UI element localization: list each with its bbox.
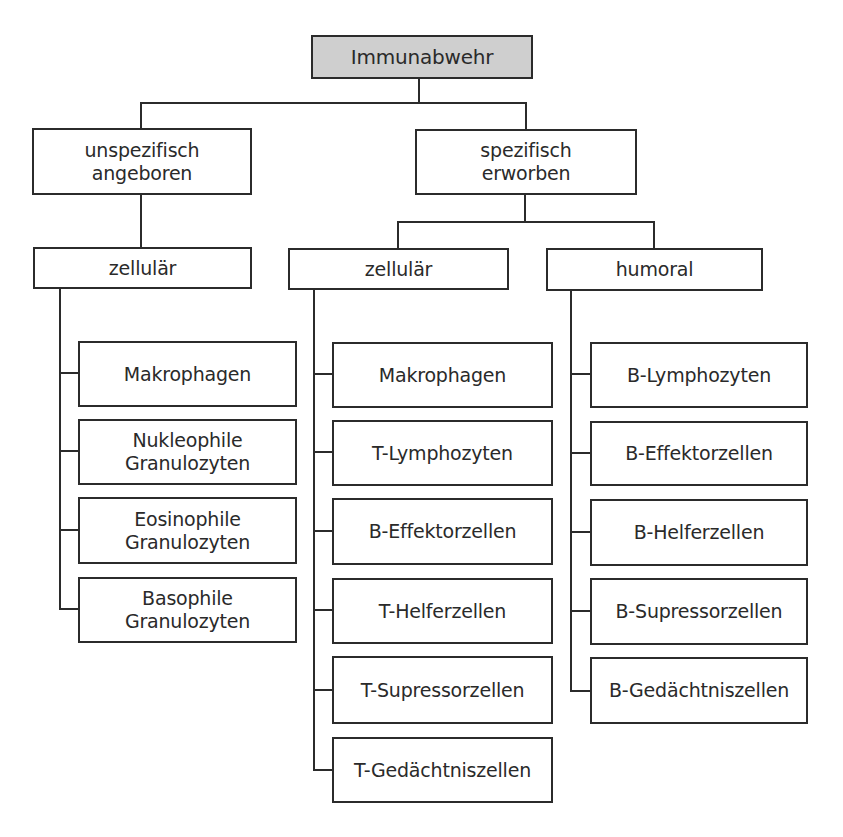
leaf-col3-b-helferzellen: B-Helferzellen bbox=[590, 499, 808, 566]
branch-col2-5 bbox=[313, 769, 333, 771]
leaf-label: B-Lymphozyten bbox=[627, 364, 771, 387]
branch-col3-4 bbox=[570, 690, 591, 692]
connector-root-down bbox=[418, 78, 420, 104]
leaf-col2-t-lymphozyten: T-Lymphozyten bbox=[332, 420, 553, 486]
branch-col3-3 bbox=[570, 610, 591, 612]
node-label: zellulär bbox=[365, 258, 432, 281]
connector-unspezifisch-down bbox=[140, 193, 142, 248]
connector-to-zellulaer-spez bbox=[397, 221, 399, 249]
connector-spezifisch-down bbox=[524, 193, 526, 223]
branch-col1-2 bbox=[59, 529, 79, 531]
connector-level2-bar bbox=[397, 221, 655, 223]
leaf-label: T-Supressorzellen bbox=[361, 679, 525, 702]
leaf-col1-nukleophile: Nukleophile Granulozyten bbox=[78, 419, 297, 485]
leaf-label: B-Gedächtniszellen bbox=[609, 679, 789, 702]
leaf-col3-b-effektorzellen: B-Effektorzellen bbox=[590, 421, 808, 486]
branch-col2-1 bbox=[313, 451, 333, 453]
connector-to-unspezifisch bbox=[140, 102, 142, 129]
branch-col2-0 bbox=[313, 373, 333, 375]
node-label: humoral bbox=[616, 258, 694, 281]
leaf-col3-b-gedaechtniszellen: B-Gedächtniszellen bbox=[590, 657, 808, 724]
node-label: spezifisch erworben bbox=[480, 139, 571, 185]
node-zellulaer-unspezifisch: zellulär bbox=[33, 247, 252, 289]
spine-col1 bbox=[59, 287, 61, 610]
branch-col1-0 bbox=[59, 372, 79, 374]
leaf-col2-t-gedaechtniszellen: T-Gedächtniszellen bbox=[332, 737, 553, 803]
connector-level1-bar bbox=[140, 102, 527, 104]
leaf-col2-t-supressorzellen: T-Supressorzellen bbox=[332, 656, 553, 724]
leaf-label: B-Effektorzellen bbox=[625, 442, 773, 465]
leaf-col2-t-helferzellen: T-Helferzellen bbox=[332, 578, 553, 644]
leaf-label: B-Effektorzellen bbox=[369, 520, 517, 543]
leaf-col1-makrophagen: Makrophagen bbox=[78, 341, 297, 407]
node-unspezifisch-angeboren: unspezifisch angeboren bbox=[32, 128, 252, 195]
leaf-label: Makrophagen bbox=[124, 363, 251, 386]
leaf-col1-basophile: Basophile Granulozyten bbox=[78, 577, 297, 643]
node-immunabwehr: Immunabwehr bbox=[311, 35, 533, 79]
leaf-label: T-Lymphozyten bbox=[372, 442, 513, 465]
leaf-label: B-Helferzellen bbox=[634, 521, 765, 544]
leaf-col1-eosinophile: Eosinophile Granulozyten bbox=[78, 497, 297, 564]
leaf-label: Makrophagen bbox=[379, 364, 506, 387]
leaf-label: Basophile Granulozyten bbox=[125, 587, 250, 633]
leaf-col3-b-supressorzellen: B-Supressorzellen bbox=[590, 578, 808, 645]
connector-to-humoral bbox=[653, 221, 655, 249]
node-zellulaer-spezifisch: zellulär bbox=[288, 248, 509, 290]
node-label: Immunabwehr bbox=[351, 46, 494, 69]
leaf-label: Eosinophile Granulozyten bbox=[125, 508, 250, 554]
leaf-label: T-Helferzellen bbox=[379, 600, 506, 623]
leaf-label: Nukleophile Granulozyten bbox=[125, 429, 250, 475]
branch-col3-1 bbox=[570, 452, 591, 454]
branch-col3-2 bbox=[570, 531, 591, 533]
branch-col1-1 bbox=[59, 450, 79, 452]
leaf-label: T-Gedächtniszellen bbox=[354, 759, 531, 782]
leaf-label: B-Supressorzellen bbox=[616, 600, 783, 623]
branch-col2-4 bbox=[313, 689, 333, 691]
spine-col3 bbox=[570, 289, 572, 692]
branch-col1-3 bbox=[59, 608, 79, 610]
node-humoral: humoral bbox=[546, 248, 763, 291]
node-label: zellulär bbox=[109, 257, 176, 280]
leaf-col3-b-lymphozyten: B-Lymphozyten bbox=[590, 342, 808, 408]
node-spezifisch-erworben: spezifisch erworben bbox=[415, 129, 637, 195]
leaf-col2-b-effektorzellen: B-Effektorzellen bbox=[332, 498, 553, 565]
connector-to-spezifisch bbox=[525, 102, 527, 129]
branch-col3-0 bbox=[570, 373, 591, 375]
leaf-col2-makrophagen: Makrophagen bbox=[332, 342, 553, 408]
branch-col2-2 bbox=[313, 530, 333, 532]
branch-col2-3 bbox=[313, 609, 333, 611]
node-label: unspezifisch angeboren bbox=[85, 139, 200, 185]
